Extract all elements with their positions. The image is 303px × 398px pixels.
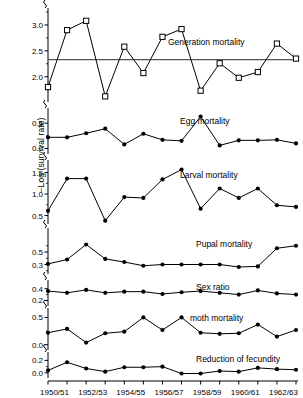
data-point <box>294 328 298 332</box>
data-point <box>256 288 260 292</box>
data-point <box>160 138 164 142</box>
data-point <box>236 75 241 80</box>
data-point <box>46 289 50 293</box>
data-point <box>217 61 222 66</box>
data-point <box>64 28 69 33</box>
data-point <box>141 365 145 369</box>
data-point <box>46 331 50 335</box>
panel-2: 0.51.01.5Larval mortality <box>32 152 298 224</box>
y-tick-label: 0.0 <box>32 369 44 378</box>
x-tick-label: 1950/51 <box>40 388 69 397</box>
data-point <box>275 334 279 338</box>
data-point <box>65 177 69 181</box>
data-point <box>141 70 146 75</box>
data-point <box>46 135 50 139</box>
panel-0: 2.02.53.0Generation mortality <box>32 0 299 102</box>
data-point <box>141 196 145 200</box>
data-point <box>237 292 241 296</box>
data-point <box>65 135 69 139</box>
data-point <box>293 56 298 61</box>
data-point <box>275 367 279 371</box>
data-line <box>48 317 296 342</box>
data-point <box>218 262 222 266</box>
y-tick-label: 0.5 <box>32 313 44 322</box>
data-line <box>48 245 296 268</box>
panel-3: 0.30.5Pupal mortality <box>32 220 298 274</box>
x-tick-label: 1956/57 <box>155 388 184 397</box>
data-point <box>237 196 241 200</box>
data-point <box>275 291 279 295</box>
data-point <box>256 138 260 142</box>
data-point <box>65 360 69 364</box>
y-tick-label: 0.0 <box>32 341 44 350</box>
x-axis: 1950/511952/531954/551956/571958/591960/… <box>40 381 298 397</box>
data-point <box>198 88 203 93</box>
data-point <box>255 69 260 74</box>
data-point <box>256 186 260 190</box>
data-point <box>160 365 164 369</box>
data-point <box>46 209 50 213</box>
y-tick-label: 0.2 <box>32 356 44 365</box>
data-point <box>218 332 222 336</box>
data-point <box>103 331 107 335</box>
figure-root: 2.02.53.0Generation mortality0.00.5Egg m… <box>0 0 303 398</box>
data-point <box>256 322 260 326</box>
data-point <box>122 44 127 49</box>
data-point <box>160 177 164 181</box>
data-point <box>122 260 126 264</box>
data-point <box>179 371 183 375</box>
data-point <box>103 370 107 374</box>
data-point <box>237 138 241 142</box>
data-point <box>122 142 126 146</box>
data-point <box>199 331 203 335</box>
panel-title: Generation mortality <box>168 37 245 47</box>
panel-title: Egg mortality <box>180 116 230 126</box>
panel-5: 0.00.5moth mortality <box>32 300 298 350</box>
data-point <box>45 84 50 89</box>
data-point <box>294 141 298 145</box>
data-point <box>103 257 107 261</box>
data-point <box>237 265 241 269</box>
data-point <box>199 262 203 266</box>
data-point <box>275 246 279 250</box>
panel-title: Sex ratio <box>196 282 230 292</box>
panel-4: 0.20.4Sex ratio <box>32 272 298 306</box>
data-point <box>218 369 222 373</box>
y-tick-label: 2.5 <box>32 47 44 56</box>
data-point <box>218 186 222 190</box>
data-point <box>160 34 165 39</box>
data-point <box>84 340 88 344</box>
data-point <box>237 331 241 335</box>
panel-1: 0.00.5Egg mortality <box>32 100 298 154</box>
data-point <box>122 195 126 199</box>
data-point <box>103 94 108 99</box>
panel-title: Reduction of fecundity <box>196 354 281 364</box>
y-tick-label: 0.2 <box>32 296 44 305</box>
panel-title: Pupal mortality <box>196 239 253 249</box>
data-point <box>160 328 164 332</box>
data-point <box>160 262 164 266</box>
data-point <box>141 290 145 294</box>
data-line <box>48 21 296 97</box>
data-point <box>294 368 298 372</box>
data-point <box>141 264 145 268</box>
data-point <box>294 292 298 296</box>
data-point <box>141 315 145 319</box>
y-tick-label: 0.5 <box>32 248 44 257</box>
x-tick-label: 1962/63 <box>269 388 298 397</box>
x-tick-label: 1958/59 <box>193 388 222 397</box>
data-point <box>84 242 88 246</box>
data-point <box>294 244 298 248</box>
panel-title: moth mortality <box>190 313 244 323</box>
data-point <box>256 264 260 268</box>
data-point <box>103 219 107 223</box>
data-point <box>237 370 241 374</box>
data-point <box>141 132 145 136</box>
data-point <box>199 371 203 375</box>
axis-break-symbol <box>44 272 47 280</box>
y-tick-label: 0.4 <box>32 285 44 294</box>
axis-break-symbol <box>44 300 47 308</box>
data-point <box>122 290 126 294</box>
y-tick-label: 0.3 <box>32 261 44 270</box>
data-point <box>160 292 164 296</box>
